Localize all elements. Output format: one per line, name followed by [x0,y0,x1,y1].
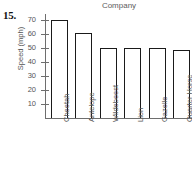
y-axis-tick: 20 [41,90,49,91]
y-axis-tick-label: 40 [28,57,36,66]
x-axis-category-label: Quarter Horse [185,74,192,122]
y-axis-tick: 30 [41,76,49,77]
y-axis-tick: 70 [41,20,49,21]
y-axis-tick-label: 50 [28,43,36,52]
chart-title: Company [46,1,192,10]
y-axis-tick: 10 [41,104,49,105]
y-axis-tick-label: 60 [28,29,36,38]
y-axis-tick-label: 10 [28,99,36,108]
x-axis-category-label: Wildebeest [111,85,120,122]
y-axis-tick: 60 [41,34,49,35]
y-axis-tick-label: 30 [28,71,36,80]
x-axis-category-label: Gazelle [160,97,169,122]
figure: 15. Company Speed (mph) 10203040506070 C… [0,0,192,175]
y-axis-tick: 50 [41,48,49,49]
problem-number: 15. [3,9,16,21]
y-axis-title: Speed (mph) [16,21,25,77]
y-axis-tick-label: 70 [28,15,36,24]
x-axis-category-label: Antelope [87,92,96,122]
y-axis-tick: 40 [41,62,49,63]
y-axis-tick-label: 20 [28,85,36,94]
x-axis-category-label: Lion [136,108,145,122]
x-axis-category-label: Cheetah [62,94,71,122]
